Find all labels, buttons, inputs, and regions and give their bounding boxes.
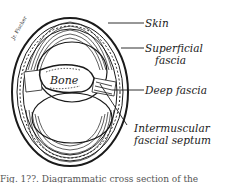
label-septum-line2: fascial septum [134,135,211,146]
label-superficial-fascia-line2: fascia [155,55,186,66]
label-deep-fascia: Deep fascia [145,85,207,96]
limb-cross-section-diagram: Bone Jr. Fischer Skin Superficial fascia… [0,0,232,183]
bone-label: Bone [49,74,79,87]
label-septum-line1: Intermuscular [134,123,210,134]
figure-caption: Fig. 1??. Diagrammatic cross section of … [0,174,198,183]
label-superficial-fascia-line1: Superficial [145,43,203,54]
label-skin: Skin [145,18,169,29]
artist-signature: Jr. Fischer [9,14,29,41]
